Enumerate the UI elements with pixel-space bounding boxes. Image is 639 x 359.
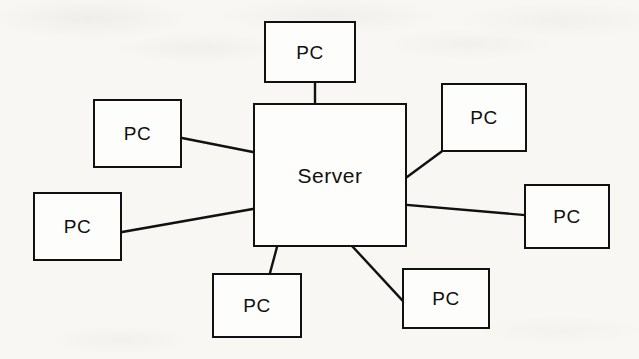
pc-bottom-right-label: PC [432, 289, 459, 308]
pc-upper-left[interactable]: PC [93, 99, 182, 168]
pc-left[interactable]: PC [33, 192, 122, 261]
pc-bottom-left-label: PC [243, 296, 270, 315]
link-right [407, 205, 524, 215]
pc-upper-right-label: PC [470, 108, 497, 127]
pc-top[interactable]: PC [264, 21, 356, 83]
link-left [122, 209, 253, 232]
pc-top-label: PC [296, 43, 323, 62]
pc-left-label: PC [64, 217, 91, 236]
network-diagram: Server PCPCPCPCPCPCPC [0, 0, 639, 359]
pc-right-label: PC [553, 207, 580, 226]
link-bottom-right [353, 247, 402, 300]
pc-right[interactable]: PC [524, 184, 610, 249]
link-upper-left [182, 138, 253, 152]
pc-bottom-right[interactable]: PC [402, 268, 490, 329]
link-bottom-left [270, 247, 277, 273]
server-node[interactable]: Server [253, 103, 407, 247]
pc-upper-right[interactable]: PC [441, 83, 527, 152]
pc-upper-left-label: PC [124, 124, 151, 143]
server-label: Server [298, 165, 363, 186]
pc-bottom-left[interactable]: PC [212, 273, 302, 338]
link-upper-right [407, 152, 441, 177]
